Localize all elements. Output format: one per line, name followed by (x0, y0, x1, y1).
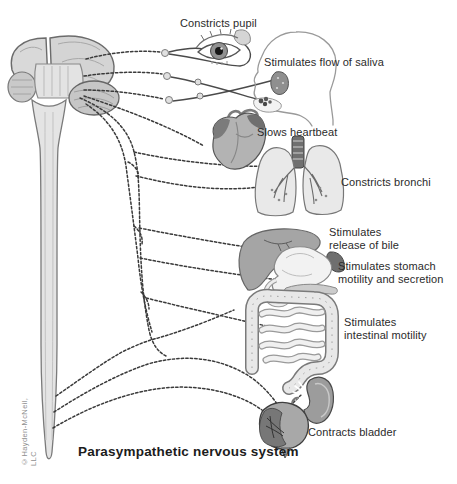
label-constricts-pupil: Constricts pupil (180, 17, 257, 30)
label-intestinal-motility: Stimulates intestinal motility (344, 316, 427, 342)
label-stomach-motility: Stimulates stomach motility and secretio… (338, 260, 444, 286)
intestines-illustration (252, 296, 332, 388)
label-slows-heartbeat: Slows heartbeat (257, 126, 337, 139)
label-contracts-bladder: Contracts bladder (308, 426, 397, 439)
label-release-of-bile: Stimulates release of bile (329, 226, 399, 252)
label-saliva: Stimulates flow of saliva (264, 56, 384, 69)
parasympathetic-diagram: Constricts pupil Stimulates flow of sali… (0, 0, 457, 484)
lungs-illustration (255, 136, 343, 216)
figure-title: Parasympathetic nervous system (78, 444, 299, 459)
parotid-gland-illustration (271, 72, 289, 95)
submandibular-gland-illustration (254, 97, 282, 112)
label-constricts-bronchi: Constricts bronchi (341, 176, 431, 189)
ganglion-dots (162, 50, 204, 104)
copyright-text: ©Hayden-McNeil, LLC (20, 388, 38, 466)
head-profile-illustration (254, 32, 337, 126)
heart-illustration (213, 110, 266, 169)
